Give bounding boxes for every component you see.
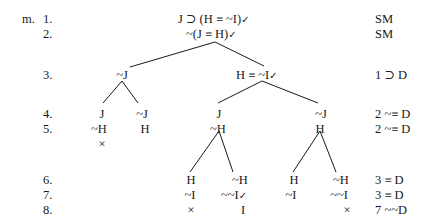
branch-l3left-to-l4a <box>103 81 122 103</box>
branch-l2-to-l3-left <box>130 42 215 67</box>
node-l6-d: ~H <box>333 174 349 187</box>
branch-l5d-to-l6d <box>320 131 336 172</box>
formula-text: ~(J ≡ H) <box>186 27 228 41</box>
branch-l2-to-l3-right <box>215 42 264 66</box>
formula-line-1: J ⊃ (H ≡ ~I)✓ <box>178 13 250 26</box>
justification-7: 3 ≡ D <box>375 189 404 202</box>
line-number-7: 7. <box>43 189 52 202</box>
formula-text: ~~I <box>221 188 239 202</box>
node-l6-c: H <box>289 174 298 187</box>
node-l5-b: H <box>140 123 149 136</box>
line-number-1: 1. <box>43 13 52 26</box>
formula-text: H ≡ ~I <box>236 68 269 82</box>
node-l8-b: I <box>241 204 245 217</box>
justification-5: 2 ~≡ D <box>375 123 410 136</box>
branch-l5c-to-l6b <box>219 131 233 172</box>
justification-4: 2 ~≡ D <box>375 108 410 121</box>
check-mark-icon: ✓ <box>241 14 249 25</box>
check-mark-icon: ✓ <box>269 70 277 81</box>
node-l7-d: ~~I <box>330 189 348 202</box>
formula-text: J ⊃ (H ≡ ~I) <box>178 12 241 26</box>
node-l5-c: ~H <box>210 123 226 136</box>
branch-l3right-to-l4d <box>262 81 318 103</box>
branch-l3right-to-l4c <box>218 81 262 103</box>
check-mark-icon: ✓ <box>239 190 247 201</box>
node-l5-d: H <box>315 123 324 136</box>
node-l4-d: ~J <box>315 108 327 121</box>
node-l3-left: ~J <box>116 69 128 82</box>
branch-l3left-to-l4b <box>122 81 138 103</box>
branch-closed-mark: × <box>98 138 105 151</box>
branch-l5c-to-l6a <box>190 131 219 172</box>
node-l7-c: ~I <box>286 189 297 202</box>
branch-closed-mark: × <box>343 204 350 217</box>
node-l3-right: H ≡ ~I✓ <box>236 69 278 82</box>
line-number-8: 8. <box>43 204 52 217</box>
node-l7-a: ~I <box>185 189 196 202</box>
justification-2: SM <box>375 28 393 41</box>
line-number-2: 2. <box>43 28 52 41</box>
line-number-6: 6. <box>43 174 52 187</box>
justification-8: 7 ~~D <box>375 204 407 217</box>
node-l4-c: J <box>217 108 222 121</box>
justification-6: 3 ≡ D <box>375 174 404 187</box>
check-mark-icon: ✓ <box>228 29 236 40</box>
problem-label: m. <box>22 13 35 26</box>
line-number-3: 3. <box>43 69 52 82</box>
justification-3: 1 ⊃ D <box>375 69 407 82</box>
branch-closed-mark: × <box>187 204 194 217</box>
line-number-5: 5. <box>43 123 52 136</box>
node-l5-a: ~H <box>91 123 107 136</box>
formula-line-2: ~(J ≡ H)✓ <box>186 28 237 41</box>
line-number-4: 4. <box>43 108 52 121</box>
node-l7-b: ~~I✓ <box>221 189 247 202</box>
branch-l5d-to-l6c <box>293 131 320 172</box>
node-l6-a: H <box>186 174 195 187</box>
node-l4-a: J <box>100 108 105 121</box>
node-l4-b: ~J <box>136 108 148 121</box>
justification-1: SM <box>375 13 393 26</box>
node-l6-b: ~H <box>232 174 248 187</box>
